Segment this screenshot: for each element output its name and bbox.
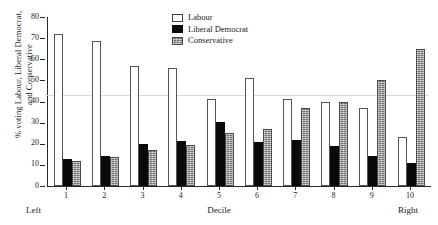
- bar-labour-decile-8: [321, 102, 330, 187]
- x-tick-label-9: 9: [360, 191, 384, 200]
- bar-liberal-democrat-decile-4: [177, 141, 186, 186]
- y-tick-mark: [40, 38, 45, 39]
- bar-labour-decile-6: [245, 78, 254, 186]
- y-tick-label: 70: [31, 33, 39, 42]
- bar-conservative-decile-6: [263, 129, 272, 186]
- bar-labour-decile-3: [130, 66, 139, 186]
- x-tick-mark: [66, 186, 67, 190]
- y-tick-label: 80: [31, 12, 39, 21]
- bar-liberal-democrat-decile-9: [368, 156, 377, 186]
- y-tick-label: 10: [31, 159, 39, 168]
- legend-swatch-icon: [172, 37, 183, 45]
- y-tick-label: 60: [31, 54, 39, 63]
- bar-conservative-decile-4: [186, 145, 195, 186]
- x-tick-label-2: 2: [92, 191, 116, 200]
- y-tick-mark: [40, 123, 45, 124]
- y-tick-label: 40: [31, 96, 39, 105]
- bar-labour-decile-9: [359, 108, 368, 186]
- bar-liberal-democrat-decile-2: [101, 156, 110, 186]
- x-tick-mark: [372, 186, 373, 190]
- x-axis-title: Decile: [0, 205, 438, 215]
- x-tick-label-4: 4: [169, 191, 193, 200]
- chart-figure: % voting Labour, Liberal Democrat, and C…: [0, 0, 438, 225]
- reference-line: [47, 95, 429, 96]
- bar-conservative-decile-2: [110, 157, 119, 186]
- bar-liberal-democrat-decile-10: [407, 163, 416, 186]
- x-tick-mark: [143, 186, 144, 190]
- x-tick-label-1: 1: [54, 191, 78, 200]
- bar-liberal-democrat-decile-8: [330, 146, 339, 186]
- legend-item-labour: Labour: [172, 12, 248, 24]
- bar-liberal-democrat-decile-3: [139, 144, 148, 186]
- y-tick-label: 20: [31, 138, 39, 147]
- bar-conservative-decile-9: [377, 80, 386, 186]
- y-tick-label: 0: [35, 181, 39, 190]
- x-tick-mark: [257, 186, 258, 190]
- bar-labour-decile-10: [398, 137, 407, 186]
- legend-item-liberal-democrat: Liberal Democrat: [172, 24, 248, 36]
- bar-conservative-decile-5: [225, 133, 234, 186]
- bar-labour-decile-7: [283, 99, 292, 186]
- y-tick-mark: [40, 102, 45, 103]
- bar-labour-decile-4: [168, 68, 177, 186]
- x-tick-label-7: 7: [283, 191, 307, 200]
- bar-labour-decile-1: [54, 34, 63, 186]
- legend-label: Liberal Democrat: [188, 24, 248, 36]
- bar-conservative-decile-7: [301, 108, 310, 186]
- bar-conservative-decile-1: [72, 161, 81, 186]
- y-tick-mark: [40, 186, 45, 187]
- x-tick-mark: [410, 186, 411, 190]
- bar-conservative-decile-3: [148, 150, 157, 186]
- bar-conservative-decile-8: [339, 102, 348, 187]
- y-tick-mark: [40, 80, 45, 81]
- x-tick-mark: [334, 186, 335, 190]
- bar-liberal-democrat-decile-1: [63, 159, 72, 186]
- legend-item-conservative: Conservative: [172, 35, 248, 47]
- x-tick-mark: [219, 186, 220, 190]
- y-tick-mark: [40, 17, 45, 18]
- y-tick-mark: [40, 144, 45, 145]
- x-tick-mark: [104, 186, 105, 190]
- x-tick-mark: [295, 186, 296, 190]
- y-tick-label: 50: [31, 75, 39, 84]
- y-tick-label: 30: [31, 117, 39, 126]
- y-tick-mark: [40, 165, 45, 166]
- legend-label: Labour: [188, 12, 213, 24]
- legend-swatch-icon: [172, 25, 183, 33]
- legend-label: Conservative: [188, 35, 233, 47]
- bar-liberal-democrat-decile-6: [254, 142, 263, 186]
- x-tick-label-6: 6: [245, 191, 269, 200]
- bar-liberal-democrat-decile-7: [292, 140, 301, 186]
- bar-liberal-democrat-decile-5: [216, 122, 225, 186]
- x-tick-label-5: 5: [207, 191, 231, 200]
- x-tick-label-8: 8: [322, 191, 346, 200]
- bar-labour-decile-5: [207, 99, 216, 186]
- bar-labour-decile-2: [92, 41, 101, 186]
- chart-legend: LabourLiberal DemocratConservative: [172, 12, 248, 47]
- x-tick-mark: [181, 186, 182, 190]
- y-tick-mark: [40, 59, 45, 60]
- bar-conservative-decile-10: [416, 49, 425, 186]
- x-tick-label-3: 3: [131, 191, 155, 200]
- x-tick-label-10: 10: [398, 191, 422, 200]
- legend-swatch-icon: [172, 14, 183, 22]
